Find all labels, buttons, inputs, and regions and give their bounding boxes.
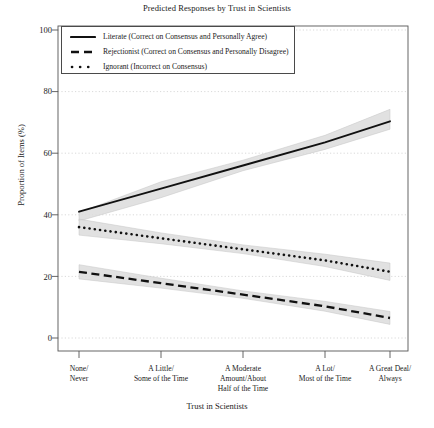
legend-label-literate: Literate (Correct on Consensus and Perso… <box>103 32 267 41</box>
x-tick-label-a-little-some: A Little/ Some of the Time <box>115 364 207 384</box>
x-tick-line: Amount/About <box>197 374 289 384</box>
x-tick-line: Always <box>344 374 434 384</box>
series-band-literate <box>79 109 390 221</box>
x-tick-line: Never <box>33 374 125 384</box>
y-axis-ticks <box>52 30 58 338</box>
legend: Literate (Correct on Consensus and Perso… <box>61 26 295 74</box>
x-tick-line: A Great Deal/ <box>344 364 434 374</box>
plot-frame <box>58 26 408 351</box>
x-axis-ticks <box>79 351 390 358</box>
legend-key-solid-icon <box>70 32 96 42</box>
legend-label-rejectionist: Rejectionist (Correct on Consensus and P… <box>103 47 289 56</box>
x-tick-line: None/ <box>33 364 125 374</box>
legend-label-ignorant: Ignorant (Incorrect on Consensus) <box>103 62 207 71</box>
x-tick-line: Some of the Time <box>115 374 207 384</box>
x-tick-line: A Little/ <box>115 364 207 374</box>
x-tick-label-none-never: None/ Never <box>33 364 125 384</box>
legend-key-dashed-icon <box>70 47 96 57</box>
chart-figure: Predicted Responses by Trust in Scientis… <box>0 0 434 428</box>
x-tick-line: Half of the Time <box>197 384 289 394</box>
legend-item-ignorant: Ignorant (Incorrect on Consensus) <box>70 59 207 74</box>
legend-key-dotted-icon <box>70 62 96 72</box>
x-tick-line: A Moderate <box>197 364 289 374</box>
x-tick-label-great-deal-always: A Great Deal/ Always <box>344 364 434 384</box>
legend-item-literate: Literate (Correct on Consensus and Perso… <box>70 29 267 44</box>
legend-item-rejectionist: Rejectionist (Correct on Consensus and P… <box>70 44 289 59</box>
x-tick-label-moderate-half: A Moderate Amount/About Half of the Time <box>197 364 289 395</box>
series-band-ignorant <box>79 219 390 280</box>
